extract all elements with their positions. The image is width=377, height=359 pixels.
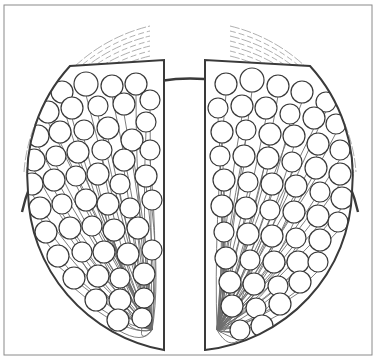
cluster-circle — [109, 289, 131, 311]
cluster-circle — [82, 216, 102, 236]
cluster-circle — [326, 114, 346, 134]
cluster-circle — [85, 289, 107, 311]
cluster-circle — [21, 173, 43, 195]
cluster-circle — [303, 107, 325, 129]
cluster-circle — [240, 68, 264, 92]
cluster-circle — [88, 96, 108, 116]
cluster-circle — [74, 72, 98, 96]
cluster-circle — [263, 251, 285, 273]
cluster-circle — [285, 175, 307, 197]
cluster-circle — [255, 97, 277, 119]
illustration-canvas — [0, 0, 377, 359]
cluster-circle — [72, 242, 92, 262]
cluster-circle — [280, 104, 300, 124]
cluster-circle — [127, 217, 149, 239]
cluster-circle — [309, 229, 331, 251]
cluster-circle — [230, 320, 250, 340]
cluster-circle — [134, 288, 154, 308]
cluster-circle — [259, 123, 281, 145]
cluster-circle — [235, 197, 257, 219]
right-lobe — [205, 60, 353, 350]
cluster-circle — [59, 217, 81, 239]
cluster-circle — [47, 245, 69, 267]
cluster-circle — [35, 221, 57, 243]
cluster-circle — [49, 121, 71, 143]
cluster-circle — [329, 163, 351, 185]
cluster-circle — [97, 117, 119, 139]
cluster-circle — [215, 73, 237, 95]
cluster-circle — [140, 140, 160, 160]
cluster-circle — [286, 228, 306, 248]
cluster-circle — [307, 205, 329, 227]
cluster-circle — [310, 182, 330, 202]
cluster-circle — [291, 81, 313, 103]
cluster-circle — [211, 195, 233, 217]
cluster-circle — [240, 250, 260, 270]
cluster-circle — [142, 240, 162, 260]
cluster-circle — [283, 201, 305, 223]
cluster-circle — [142, 190, 162, 210]
cluster-circle — [219, 271, 241, 293]
cluster-circle — [308, 252, 328, 272]
cluster-circle — [243, 273, 265, 295]
cluster-circle — [120, 198, 140, 218]
cluster-circle — [331, 187, 353, 209]
cluster-circle — [107, 309, 129, 331]
cluster-circle — [133, 263, 155, 285]
cluster-circle — [46, 146, 66, 166]
cluster-circle — [52, 194, 72, 214]
cluster-circle — [93, 241, 115, 263]
cluster-circle — [287, 251, 309, 273]
cluster-circle — [305, 157, 327, 179]
cluster-circle — [210, 146, 230, 166]
cluster-circle — [136, 112, 156, 132]
cluster-circle — [236, 120, 256, 140]
sectioned-sphere-illustration — [0, 0, 377, 359]
cluster-circle — [67, 141, 89, 163]
cluster-circle — [257, 147, 279, 169]
cluster-circle — [140, 90, 160, 110]
cluster-circle — [113, 149, 135, 171]
cluster-circle — [330, 140, 350, 160]
cluster-circle — [87, 265, 109, 287]
cluster-circle — [238, 172, 258, 192]
cluster-circle — [110, 174, 130, 194]
cluster-circle — [214, 222, 234, 242]
cluster-circle — [221, 295, 243, 317]
cluster-circle — [211, 121, 233, 143]
cluster-circle — [132, 308, 152, 328]
cluster-circle — [267, 75, 289, 97]
cluster-circle — [63, 267, 85, 289]
cluster-circle — [208, 98, 228, 118]
cluster-circle — [261, 225, 283, 247]
cluster-circle — [113, 93, 135, 115]
cluster-circle — [66, 166, 86, 186]
cluster-circle — [282, 152, 302, 172]
cluster-circle — [260, 200, 280, 220]
cluster-circle — [92, 140, 112, 160]
cluster-circle — [289, 271, 311, 293]
cluster-circle — [97, 193, 119, 215]
left-lobe — [21, 60, 164, 350]
cluster-circle — [75, 189, 97, 211]
cluster-circle — [135, 165, 157, 187]
cluster-circle — [215, 247, 237, 269]
cluster-circle — [110, 268, 130, 288]
cluster-circle — [213, 169, 235, 191]
cluster-circle — [87, 163, 109, 185]
cluster-circle — [261, 173, 283, 195]
cluster-circle — [43, 169, 65, 191]
cluster-circle — [307, 133, 329, 155]
cluster-circle — [103, 219, 125, 241]
cluster-circle — [117, 243, 139, 265]
cluster-circle — [61, 97, 83, 119]
cluster-circle — [29, 197, 51, 219]
cluster-circle — [237, 223, 259, 245]
cluster-circle — [74, 120, 94, 140]
cluster-circle — [283, 125, 305, 147]
cluster-circle — [233, 145, 255, 167]
cluster-circle — [231, 95, 253, 117]
cluster-circle — [328, 212, 348, 232]
cluster-circle — [269, 293, 291, 315]
